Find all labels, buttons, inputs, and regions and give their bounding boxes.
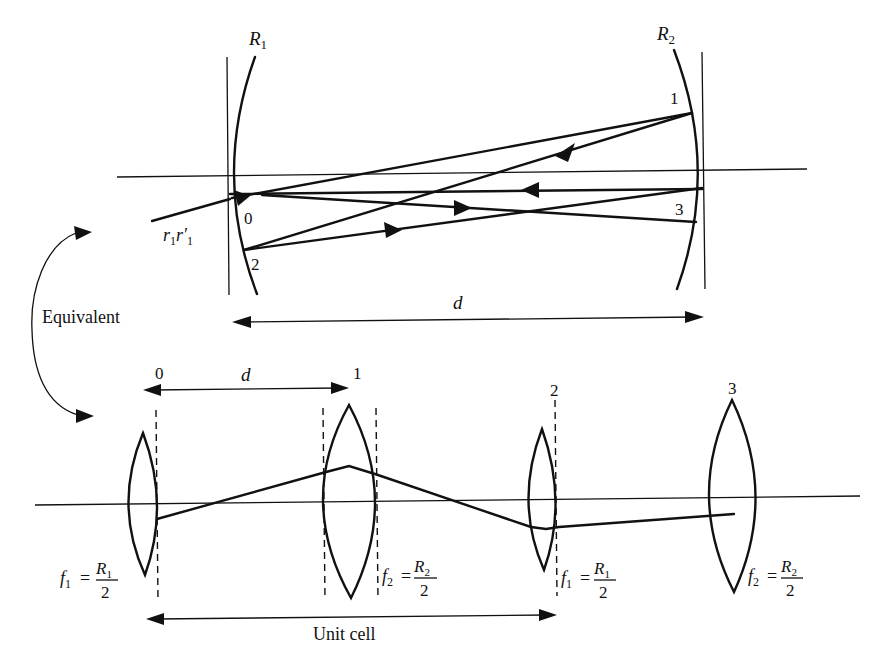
equivalent-connector: Equivalent <box>32 226 128 423</box>
separation-d-arrow-line <box>238 317 694 322</box>
svg-text:=: = <box>580 568 590 588</box>
ray-1-to-2-arrowhead <box>555 143 575 162</box>
separation-d-arrowhead-right <box>685 311 704 323</box>
lens-f2-second <box>709 400 756 592</box>
formula-lens-2: f2 = R2 2 <box>382 557 437 600</box>
separation-d-arrowhead-left <box>232 316 251 328</box>
input-ray <box>152 199 230 221</box>
formula-lens-3: f1 = R1 2 <box>561 559 616 602</box>
equivalent-arrowhead-bottom <box>76 409 94 423</box>
ray-1-to-2 <box>244 113 692 250</box>
svg-text:2: 2 <box>420 581 429 600</box>
optical-axis-bottom <box>35 496 860 505</box>
spacing-d-arrowhead-right <box>331 382 349 394</box>
resonator-equivalence-diagram: R1 R2 1 0 2 3 r1r′1 d Equivalent 0 1 2 3 <box>0 0 882 664</box>
svg-text:R2: R2 <box>413 557 430 578</box>
plane-label-3: 3 <box>728 379 737 398</box>
ray-0-to-3-arrowhead <box>454 200 472 216</box>
point-label-0: 0 <box>244 209 253 228</box>
unit-cell-arrowhead-left <box>146 613 164 625</box>
mirror-right-r2 <box>674 50 698 289</box>
formula-lens-1: f1 = R1 2 <box>60 559 118 602</box>
unit-cell-arrow-line <box>156 615 548 619</box>
svg-text:f1: f1 <box>561 568 572 591</box>
separation-d-label: d <box>453 292 463 313</box>
svg-text:f2: f2 <box>748 566 759 589</box>
svg-text:=: = <box>401 566 411 586</box>
equivalent-arrowhead-top <box>74 226 92 240</box>
svg-text:R1: R1 <box>593 559 610 580</box>
mirror-right-label: R2 <box>656 23 675 47</box>
svg-text:=: = <box>80 568 90 588</box>
svg-text:=: = <box>767 566 777 586</box>
ray-0-to-1 <box>232 113 692 198</box>
plane-label-1: 1 <box>353 364 362 383</box>
ray-return-horizontal <box>230 189 702 194</box>
spacing-d-arrow-line <box>152 388 340 390</box>
svg-text:R2: R2 <box>780 557 797 578</box>
point-label-1: 1 <box>670 89 679 108</box>
point-label-3: 3 <box>675 200 684 219</box>
svg-text:R1: R1 <box>95 559 112 580</box>
plane-1b-dashed <box>376 408 378 600</box>
plane-label-2: 2 <box>550 381 559 400</box>
point-label-2: 2 <box>251 255 260 274</box>
svg-text:f2: f2 <box>382 566 393 589</box>
mirror-left-label: R1 <box>248 28 267 52</box>
bottom-panel-lens-waveguide: 0 1 2 3 d f1 = R1 2 f2 = R2 <box>35 364 860 644</box>
svg-text:f1: f1 <box>60 568 71 591</box>
formula-lens-4: f2 = R2 2 <box>748 557 803 600</box>
ray-return-arrowhead <box>521 182 539 198</box>
input-ray-label: r1r′1 <box>163 225 193 248</box>
spacing-d-label: d <box>241 364 251 385</box>
lens-waveguide-ray <box>157 466 734 529</box>
plane-label-0: 0 <box>155 364 164 383</box>
ray-2-arrowhead <box>384 222 402 238</box>
equivalent-label: Equivalent <box>42 307 120 327</box>
svg-text:2: 2 <box>599 583 608 602</box>
svg-text:2: 2 <box>786 581 795 600</box>
spacing-d-arrowhead-left <box>143 384 161 396</box>
svg-text:2: 2 <box>101 583 110 602</box>
top-panel-resonator: R1 R2 1 0 2 3 r1r′1 d <box>117 23 807 328</box>
unit-cell-arrowhead-right <box>539 609 557 621</box>
unit-cell-label: Unit cell <box>313 624 375 644</box>
